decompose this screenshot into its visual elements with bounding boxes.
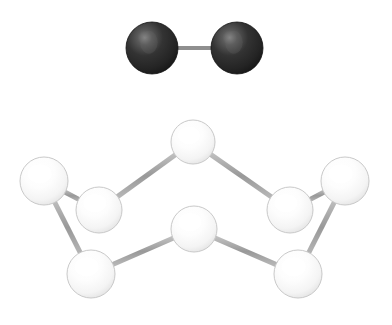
light-atom-upper-right bbox=[267, 187, 313, 233]
light-atom-bottom-right bbox=[274, 250, 322, 298]
dark-atom-right bbox=[211, 22, 263, 74]
light-atom-top-center-specular-highlight bbox=[178, 127, 200, 145]
bond-bottom-center-bottom-left bbox=[105, 235, 181, 268]
light-atom-upper-left-specular-highlight bbox=[83, 194, 106, 212]
light-atom-upper-left bbox=[76, 187, 122, 233]
light-atom-far-right bbox=[321, 157, 369, 205]
light-atom-top-center bbox=[171, 120, 215, 164]
light-atom-far-right-specular-highlight bbox=[329, 164, 353, 183]
bond-top-center-upper-right bbox=[204, 150, 278, 202]
light-atom-far-left-specular-highlight bbox=[28, 164, 52, 183]
light-atom-bottom-right-specular-highlight bbox=[282, 257, 306, 276]
light-atom-bottom-center-specular-highlight bbox=[178, 213, 201, 231]
bond-upper-left-top-center bbox=[111, 150, 182, 202]
dark-atom-left bbox=[126, 22, 178, 74]
light-atom-bottom-center bbox=[171, 206, 217, 252]
light-atom-bottom-left bbox=[67, 250, 115, 298]
atoms-layer bbox=[20, 22, 369, 298]
bond-bottom-right-bottom-center bbox=[207, 235, 284, 268]
dark-atom-left-specular-highlight bbox=[140, 31, 158, 54]
molecule-canvas bbox=[0, 0, 392, 325]
molecule-scene bbox=[0, 0, 392, 325]
light-atom-upper-right-specular-highlight bbox=[274, 194, 297, 212]
light-atom-far-left bbox=[20, 157, 68, 205]
dark-atom-right-specular-highlight bbox=[225, 31, 243, 54]
light-atom-bottom-left-specular-highlight bbox=[75, 257, 99, 276]
